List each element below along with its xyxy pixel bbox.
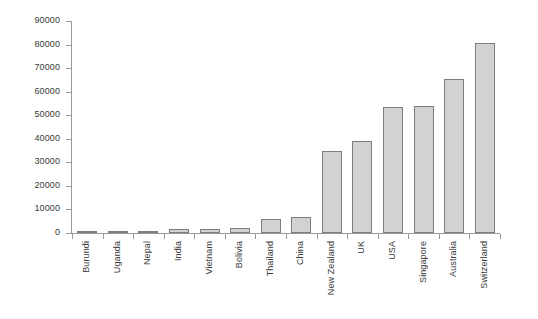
x-axis-tick-labels: BurundiUgandaNepalIndiaVietnamBoliviaTha… (72, 241, 500, 319)
x-tick-label: Bolivia (235, 241, 244, 268)
y-tick-mark (66, 68, 71, 69)
y-axis-tick-labels: 9000080000700006000050000400003000020000… (0, 0, 60, 319)
bar-usa (383, 107, 403, 233)
x-tick-label: USA (388, 241, 397, 260)
x-tick-mark (225, 234, 226, 239)
y-tick-label: 80000 (2, 40, 60, 49)
bar-china (291, 217, 311, 233)
x-tick-label: Burundi (82, 241, 91, 273)
y-tick-label: 20000 (2, 181, 60, 190)
x-tick-label: Nepal (143, 241, 152, 265)
bar-burundi (77, 231, 97, 233)
x-tick-mark (164, 234, 165, 239)
y-tick-mark (66, 209, 71, 210)
y-tick-mark (66, 92, 71, 93)
x-tick-mark (378, 234, 379, 239)
y-tick-mark (66, 115, 71, 116)
x-tick-label: Uganda (113, 241, 122, 273)
x-tick-label: Vietnam (205, 241, 214, 275)
x-tick-label: China (296, 241, 305, 265)
x-tick-label: India (174, 241, 183, 261)
y-tick-label: 90000 (2, 16, 60, 25)
x-tick-mark (500, 234, 501, 239)
x-tick-mark (133, 234, 134, 239)
y-tick-label: 50000 (2, 110, 60, 119)
y-tick-mark (66, 162, 71, 163)
y-tick-mark (66, 139, 71, 140)
bar-thailand (261, 219, 281, 233)
bar-singapore (414, 106, 434, 233)
x-tick-mark (286, 234, 287, 239)
x-tick-mark (469, 234, 470, 239)
bar-bolivia (230, 228, 250, 233)
y-tick-mark (66, 233, 71, 234)
y-tick-label: 0 (2, 228, 60, 237)
x-tick-mark (408, 234, 409, 239)
bar-chart: 9000080000700006000050000400003000020000… (0, 0, 538, 319)
bar-vietnam (200, 229, 220, 233)
x-tick-label: Thailand (266, 241, 275, 276)
x-tick-mark (439, 234, 440, 239)
y-tick-label: 10000 (2, 204, 60, 213)
x-tick-mark (255, 234, 256, 239)
y-tick-mark (66, 21, 71, 22)
x-tick-mark (347, 234, 348, 239)
x-tick-label: Singapore (419, 241, 428, 283)
x-tick-label: Switzerland (480, 241, 489, 289)
bar-new-zealand (322, 151, 342, 233)
bar-india (169, 229, 189, 233)
y-tick-label: 60000 (2, 87, 60, 96)
bar-australia (444, 79, 464, 233)
x-tick-mark (72, 234, 73, 239)
x-tick-label: New Zealand (327, 241, 336, 295)
bar-uk (352, 141, 372, 233)
y-tick-label: 40000 (2, 134, 60, 143)
y-tick-label: 70000 (2, 63, 60, 72)
y-tick-mark (66, 186, 71, 187)
y-tick-mark (66, 45, 71, 46)
bar-nepal (138, 231, 158, 233)
x-tick-mark (317, 234, 318, 239)
bar-switzerland (475, 43, 495, 233)
y-tick-label: 30000 (2, 157, 60, 166)
plot-area (72, 21, 500, 233)
x-tick-mark (194, 234, 195, 239)
x-tick-mark (103, 234, 104, 239)
x-tick-label: UK (357, 241, 366, 254)
bar-uganda (108, 231, 128, 233)
x-tick-label: Australia (449, 241, 458, 277)
